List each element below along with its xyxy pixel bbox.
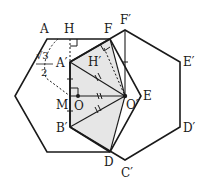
label-f: F (104, 22, 112, 36)
right-angle-h (70, 39, 77, 46)
label-o-prime: O′ (126, 98, 139, 112)
label-m: M (56, 98, 68, 112)
label-b-prime: B′ (56, 121, 68, 135)
label-sqrt3: √3 (36, 50, 49, 61)
label-f-prime: F′ (120, 13, 131, 27)
label-a-prime: A′ (55, 56, 68, 70)
label-denominator: 2 (41, 67, 47, 78)
label-d-prime: D′ (183, 121, 196, 135)
label-h: H (64, 22, 74, 36)
label-a: A (39, 22, 49, 36)
label-e-prime: E′ (183, 55, 195, 69)
label-d: D (104, 155, 114, 169)
label-o: O (74, 99, 84, 113)
geometry-diagram: A H F F′ E′ A′ H′ √3 2 M O O′ E B′ D′ D … (0, 0, 205, 182)
label-c-prime: C′ (121, 166, 133, 180)
label-e: E (143, 89, 152, 103)
label-h-prime: H′ (88, 55, 101, 69)
point-o (76, 94, 80, 98)
